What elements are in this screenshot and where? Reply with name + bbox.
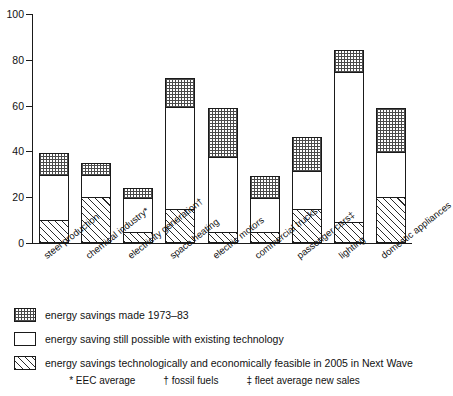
- legend-item: energy saving still possible with existi…: [14, 329, 424, 349]
- legend-swatch-blank: [14, 332, 36, 346]
- bar-segment-cross-hatch: [208, 108, 238, 158]
- bar-domestic-appliances: [376, 108, 406, 243]
- bar-segment-cross-hatch: [165, 78, 195, 108]
- bar-segment-blank: [81, 175, 111, 198]
- footnote: † fossil fuels: [163, 375, 218, 386]
- y-axis-tick: [26, 60, 33, 61]
- y-axis-tick: [26, 197, 33, 198]
- y-axis-tick: [26, 14, 33, 15]
- y-axis-tick-label: 60: [0, 101, 24, 111]
- bar-segment-blank: [39, 175, 69, 221]
- bar-steel-production: [39, 153, 69, 243]
- legend-swatch-diagonal-stripes: [14, 356, 36, 370]
- y-axis-tick-label: 100: [0, 9, 24, 19]
- y-axis-tick: [26, 243, 33, 244]
- chart-legend: energy savings made 1973–83energy saving…: [14, 305, 424, 377]
- bar-segment-cross-hatch: [250, 176, 280, 199]
- x-axis-labels: steel productionchemical industry*electr…: [0, 247, 429, 307]
- bar-segment-cross-hatch: [376, 108, 406, 154]
- legend-label: energy savings technologically and econo…: [45, 357, 413, 369]
- bars-container: [33, 14, 412, 243]
- bar-segment-cross-hatch: [39, 153, 69, 176]
- bar-segment-blank: [292, 171, 322, 210]
- footnote: * EEC average: [69, 375, 135, 386]
- legend-label: energy saving still possible with existi…: [45, 333, 284, 345]
- bar-segment-blank: [165, 107, 195, 210]
- bar-segment-blank: [376, 152, 406, 198]
- bar-segment-cross-hatch: [81, 163, 111, 177]
- y-axis-tick-label: 40: [0, 146, 24, 156]
- y-axis-tick: [26, 106, 33, 107]
- footnote: ‡ fleet average new sales: [246, 375, 359, 386]
- legend-label: energy savings made 1973–83: [45, 309, 189, 321]
- y-axis-tick-label: 80: [0, 55, 24, 65]
- chart-footnotes: * EEC average† fossil fuels‡ fleet avera…: [0, 375, 429, 386]
- y-axis-tick: [26, 151, 33, 152]
- legend-item: energy savings technologically and econo…: [14, 353, 424, 373]
- y-axis-tick-label: 20: [0, 192, 24, 202]
- bar-segment-cross-hatch: [292, 137, 322, 171]
- legend-swatch-cross-hatch: [14, 308, 36, 322]
- bar-segment-cross-hatch: [334, 50, 364, 73]
- legend-item: energy savings made 1973–83: [14, 305, 424, 325]
- bar-segment-blank: [334, 72, 364, 223]
